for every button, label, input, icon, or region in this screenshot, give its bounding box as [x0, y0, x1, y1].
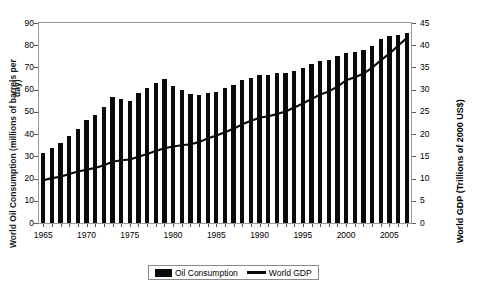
x-tick-mark — [190, 224, 191, 227]
x-tick-mark — [242, 224, 243, 227]
x-tick-mark — [381, 224, 382, 227]
right-tick-label: 0 — [420, 219, 442, 227]
line-swatch-icon — [247, 271, 266, 274]
right-tick-label: 45 — [420, 19, 442, 27]
plot-inner — [39, 23, 411, 223]
x-tick-label: 1990 — [243, 231, 277, 240]
x-tick-label: 1985 — [199, 231, 233, 240]
x-tick-mark — [251, 224, 252, 227]
plot-area — [38, 22, 412, 224]
x-tick-mark — [268, 224, 269, 227]
x-tick-mark — [363, 224, 364, 227]
x-tick-mark — [69, 224, 70, 227]
left-tick-mark — [34, 134, 38, 135]
left-tick-label: 60 — [14, 85, 34, 93]
left-tick-mark — [34, 179, 38, 180]
right-tick-mark — [412, 45, 416, 46]
x-tick-mark — [355, 224, 356, 227]
bar-swatch-icon — [155, 269, 172, 277]
right-tick-mark — [412, 223, 416, 224]
x-tick-mark — [113, 224, 114, 227]
left-tick-mark — [34, 156, 38, 157]
x-tick-mark — [260, 224, 261, 227]
x-tick-mark — [147, 224, 148, 227]
x-tick-mark — [52, 224, 53, 227]
x-tick-label: 1965 — [26, 231, 60, 240]
x-tick-mark — [78, 224, 79, 227]
line-series-world-gdp — [39, 23, 411, 223]
right-tick-mark — [412, 90, 416, 91]
legend-label-oil-consumption: Oil Consumption — [175, 268, 238, 278]
x-tick-mark — [286, 224, 287, 227]
x-tick-mark — [234, 224, 235, 227]
left-tick-mark — [34, 112, 38, 113]
x-tick-mark — [199, 224, 200, 227]
x-tick-mark — [130, 224, 131, 227]
x-tick-label: 2005 — [372, 231, 406, 240]
left-tick-label: 70 — [14, 63, 34, 71]
left-tick-label: 20 — [14, 174, 34, 182]
x-tick-label: 2000 — [329, 231, 363, 240]
x-tick-mark — [61, 224, 62, 227]
right-axis-title: World GDP (Trillions of 2000 US$) — [455, 99, 465, 243]
x-tick-mark — [303, 224, 304, 227]
left-tick-mark — [34, 223, 38, 224]
right-tick-mark — [412, 67, 416, 68]
right-tick-label: 25 — [420, 107, 442, 115]
left-tick-mark — [34, 45, 38, 46]
left-tick-mark — [34, 201, 38, 202]
right-tick-label: 10 — [420, 174, 442, 182]
x-tick-mark — [225, 224, 226, 227]
right-tick-label: 20 — [420, 130, 442, 138]
x-tick-mark — [389, 224, 390, 227]
left-tick-label: 90 — [14, 19, 34, 27]
left-tick-label: 0 — [14, 219, 34, 227]
x-tick-mark — [164, 224, 165, 227]
right-axis-tick-labels: 051015202530354045 — [420, 0, 444, 291]
right-tick-mark — [412, 156, 416, 157]
x-tick-label: 1975 — [113, 231, 147, 240]
right-tick-label: 5 — [420, 196, 442, 204]
x-tick-mark — [216, 224, 217, 227]
right-tick-label: 30 — [420, 85, 442, 93]
right-tick-mark — [412, 23, 416, 24]
x-tick-mark — [277, 224, 278, 227]
left-axis-tick-labels: 0102030405060708090 — [12, 0, 34, 291]
left-tick-mark — [34, 90, 38, 91]
left-tick-mark — [34, 23, 38, 24]
left-tick-label: 50 — [14, 107, 34, 115]
right-tick-label: 40 — [420, 41, 442, 49]
x-tick-mark — [294, 224, 295, 227]
left-tick-label: 40 — [14, 130, 34, 138]
x-tick-mark — [329, 224, 330, 227]
x-tick-mark — [407, 224, 408, 227]
x-tick-mark — [104, 224, 105, 227]
left-tick-label: 10 — [14, 196, 34, 204]
x-tick-mark — [337, 224, 338, 227]
x-tick-mark — [182, 224, 183, 227]
x-tick-label: 1970 — [70, 231, 104, 240]
legend-label-world-gdp: World GDP — [269, 268, 312, 278]
right-tick-mark — [412, 179, 416, 180]
x-tick-mark — [346, 224, 347, 227]
x-tick-mark — [208, 224, 209, 227]
left-tick-mark — [34, 67, 38, 68]
right-tick-label: 35 — [420, 63, 442, 71]
x-tick-mark — [173, 224, 174, 227]
x-tick-mark — [372, 224, 373, 227]
legend-item-oil-consumption: Oil Consumption — [155, 268, 238, 278]
left-tick-label: 30 — [14, 152, 34, 160]
right-tick-mark — [412, 112, 416, 113]
x-tick-mark — [95, 224, 96, 227]
chart-figure: World Oil Consumption (millions of barre… — [0, 0, 477, 291]
right-tick-mark — [412, 201, 416, 202]
right-tick-mark — [412, 134, 416, 135]
legend-item-world-gdp: World GDP — [247, 268, 312, 278]
x-tick-mark — [138, 224, 139, 227]
x-tick-mark — [398, 224, 399, 227]
x-tick-mark — [320, 224, 321, 227]
x-tick-mark — [87, 224, 88, 227]
left-tick-label: 80 — [14, 41, 34, 49]
x-tick-mark — [43, 224, 44, 227]
x-tick-mark — [121, 224, 122, 227]
